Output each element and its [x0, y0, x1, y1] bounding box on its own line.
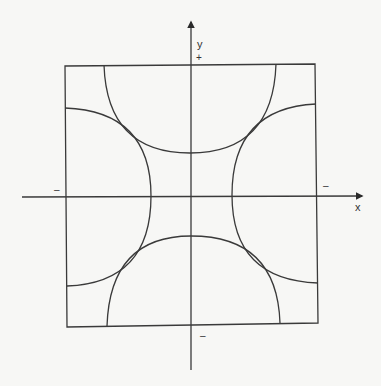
right-sign-label: – — [323, 180, 329, 191]
right-arc — [232, 104, 318, 283]
top-sign-label: + — [196, 52, 202, 63]
x-axis — [22, 196, 362, 197]
left-sign-label: – — [54, 184, 60, 195]
bottom-arc — [107, 236, 280, 326]
top-arc — [104, 64, 276, 153]
y-axis-label: y — [197, 38, 203, 50]
bottom-sign-label: – — [200, 330, 206, 341]
quadrupole-diagram: y + x – – – — [0, 0, 381, 386]
x-axis-label: x — [355, 201, 361, 213]
